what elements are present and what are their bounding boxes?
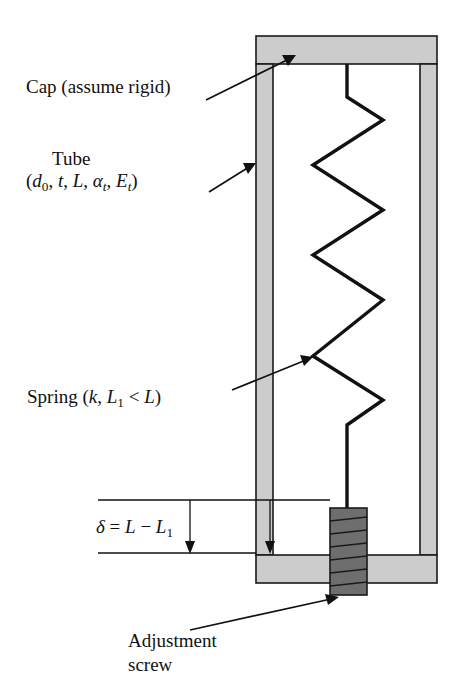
symbol-spring-length: L — [107, 386, 118, 407]
comma-2: , — [63, 170, 68, 191]
symbol-less-than: < — [129, 386, 140, 407]
symbol-minus: − — [140, 516, 151, 537]
top-cap — [256, 36, 437, 64]
tube-wall-right — [420, 64, 437, 555]
symbol-alpha: α — [93, 170, 103, 191]
label-spring: TubeSpring (k, L1 < L) — [27, 386, 161, 410]
symbol-tube-length-2: L — [144, 386, 155, 407]
comma-5: , — [97, 386, 102, 407]
comma-3: , — [83, 170, 88, 191]
symbol-delta: δ — [96, 516, 105, 537]
delta-arrow-left-head — [185, 541, 195, 554]
paren-close: ) — [131, 170, 137, 191]
label-delta-dimension: δ = L − L1 — [96, 516, 173, 540]
symbol-tube-length-3: L — [125, 516, 136, 537]
label-tube-parameters: (d0, t, L, αt, Et) — [26, 170, 138, 194]
symbol-equals: = — [110, 516, 121, 537]
symbol-modulus: E — [116, 170, 128, 191]
leader-cap — [206, 59, 289, 100]
symbol-tube-length: L — [73, 170, 84, 191]
paren-close-spring: ) — [155, 386, 161, 407]
tube-wall-left — [256, 64, 273, 555]
symbol-spring-length-2: L — [156, 516, 167, 537]
label-adjustment-screw-line1: Adjustment — [128, 630, 217, 652]
adjustment-screw — [330, 508, 367, 595]
symbol-spring-length-subscript: 1 — [117, 395, 124, 410]
leader-tube-arrowhead — [243, 163, 256, 174]
comma-1: , — [48, 170, 53, 191]
symbol-spring-constant: k — [89, 386, 97, 407]
comma-4: , — [107, 170, 112, 191]
label-adjustment-screw-line2: screw — [128, 654, 172, 676]
tube-spring-screw-diagram — [0, 0, 464, 698]
symbol-spring-length-subscript-2: 1 — [166, 525, 173, 540]
spring-text: Spring — [27, 386, 82, 407]
symbol-outer-diameter: d — [32, 170, 42, 191]
leader-screw — [190, 599, 331, 630]
leader-tube — [209, 167, 249, 192]
label-cap: Cap (assume rigid) — [26, 76, 171, 98]
spring-coil — [313, 64, 383, 508]
label-tube: Tube — [52, 148, 90, 170]
